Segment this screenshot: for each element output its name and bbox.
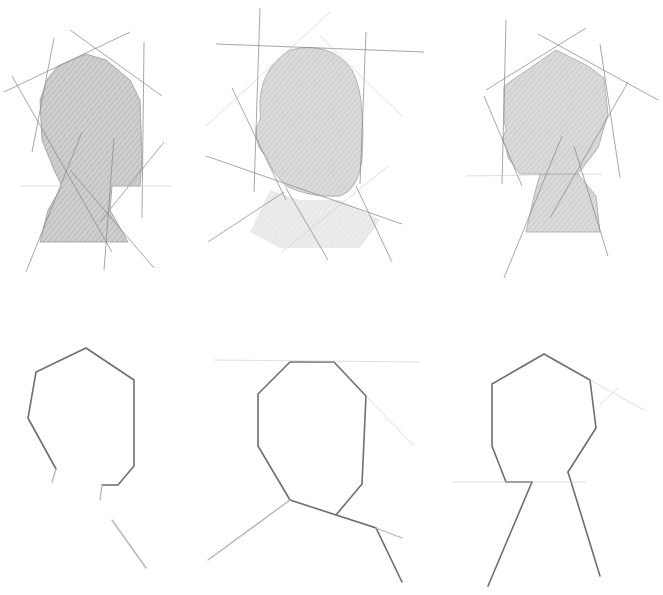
head-outline [258, 362, 366, 515]
front-neck-line [488, 482, 532, 586]
head-outline [28, 348, 134, 485]
shoulder-silhouette [250, 190, 380, 248]
neck-stub-left [52, 469, 56, 482]
shaded-study-three-quarter [4, 30, 172, 272]
shaded-study-profile [466, 20, 658, 278]
head-silhouette [40, 54, 142, 242]
neck-stub [100, 485, 102, 500]
construction-line [366, 396, 414, 446]
shoulder-line [112, 520, 146, 568]
shoulder-line [290, 500, 402, 582]
outline-block-in-profile [452, 354, 644, 586]
neck-silhouette [526, 174, 600, 232]
sketch-canvas [0, 0, 663, 595]
head-silhouette [502, 50, 608, 174]
head-outline [492, 354, 596, 482]
back-neck-line [568, 472, 600, 576]
construction-line [590, 380, 644, 410]
shoulder-line-left [208, 500, 290, 560]
head-silhouette [256, 48, 363, 197]
outline-block-in-three-quarter [28, 348, 146, 568]
outline-block-in-back [208, 360, 420, 582]
shaded-study-back [206, 8, 424, 262]
